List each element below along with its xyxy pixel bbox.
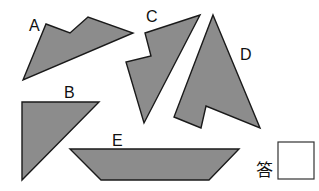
answer-area: 答 — [256, 142, 314, 180]
answer-prompt: 答 — [256, 160, 273, 180]
shape-e-polygon — [70, 149, 239, 180]
answer-box[interactable] — [278, 142, 314, 179]
puzzle-figure: A B C D E 答 — [0, 0, 319, 191]
shape-b-polygon — [22, 102, 99, 180]
shape-e-label: E — [112, 132, 123, 149]
shape-b-label: B — [64, 84, 75, 101]
shape-c-label: C — [146, 8, 158, 25]
shape-d-label: D — [240, 46, 252, 63]
shape-a: A — [23, 17, 133, 80]
shape-a-label: A — [29, 17, 40, 34]
shape-e: E — [70, 132, 239, 180]
